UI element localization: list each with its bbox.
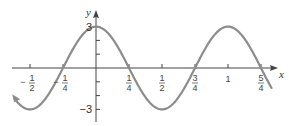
denominator: 2 bbox=[29, 83, 34, 93]
y-tick-label: 3 bbox=[86, 21, 92, 33]
minus-sign: − bbox=[53, 77, 58, 87]
x-axis-arrow-icon bbox=[270, 65, 278, 71]
y-axis-arrow-icon bbox=[93, 10, 99, 18]
x-tick-label: 12 bbox=[159, 73, 165, 93]
cosine-graph: −12−141412341543−3xy bbox=[0, 0, 289, 126]
x-tick-label: −14 bbox=[53, 73, 68, 93]
numerator: 1 bbox=[126, 73, 131, 83]
minus-sign: − bbox=[20, 77, 25, 87]
y-axis-title: y bbox=[85, 6, 91, 18]
x-tick-label: 1 bbox=[225, 74, 230, 84]
denominator: 4 bbox=[258, 83, 263, 93]
x-tick-label: −12 bbox=[20, 73, 35, 93]
numerator: 5 bbox=[258, 73, 263, 83]
labels: −12−141412341543−3xy bbox=[20, 6, 284, 115]
y-tick-label: −3 bbox=[79, 103, 92, 115]
x-axis-title: x bbox=[278, 68, 284, 80]
numerator: 3 bbox=[192, 73, 197, 83]
x-tick-label: 54 bbox=[258, 73, 264, 93]
numerator: 1 bbox=[62, 73, 67, 83]
numerator: 1 bbox=[29, 73, 34, 83]
denominator: 4 bbox=[126, 83, 131, 93]
curve-arrow-icon bbox=[12, 94, 20, 102]
denominator: 4 bbox=[192, 83, 197, 93]
x-tick-label: 14 bbox=[126, 73, 132, 93]
integer: 1 bbox=[225, 74, 230, 84]
denominator: 2 bbox=[159, 83, 164, 93]
axes bbox=[12, 10, 278, 122]
x-tick-label: 34 bbox=[192, 73, 198, 93]
numerator: 1 bbox=[159, 73, 164, 83]
denominator: 4 bbox=[62, 83, 67, 93]
